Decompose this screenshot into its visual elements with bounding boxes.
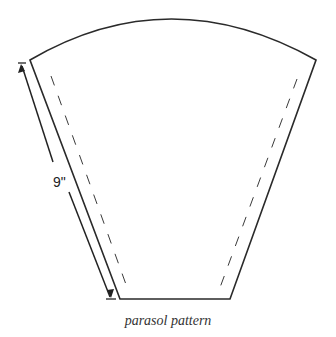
figure-caption: parasol pattern [124, 313, 212, 328]
parasol-pattern-diagram: 9" parasol pattern [0, 0, 336, 337]
dimension-arrow [18, 63, 116, 299]
dimension-line-lower [69, 192, 110, 297]
right-seam-line [218, 79, 297, 293]
dimension-label: 9" [53, 174, 66, 190]
pattern-outline [30, 19, 316, 299]
